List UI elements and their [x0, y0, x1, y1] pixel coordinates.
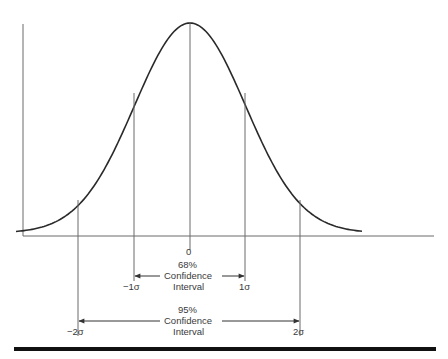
zero-label: 0 [186, 246, 191, 257]
minus-two-sigma-label: −2σ [67, 326, 84, 337]
one-sigma-label: 1σ [239, 281, 250, 292]
ci95-percent: 95% [176, 304, 199, 315]
two-sigma-label: 2σ [293, 326, 304, 337]
bell-curve [16, 23, 362, 231]
ci68-confidence: Confidence [162, 270, 214, 281]
normal-distribution-diagram [0, 0, 448, 359]
ci95-interval: Interval [171, 326, 206, 337]
bottom-rule [14, 347, 436, 351]
ci68-interval: Interval [171, 281, 206, 292]
ci68-percent: 68% [176, 259, 199, 270]
ci95-confidence: Confidence [162, 315, 214, 326]
minus-one-sigma-label: −1σ [123, 281, 140, 292]
